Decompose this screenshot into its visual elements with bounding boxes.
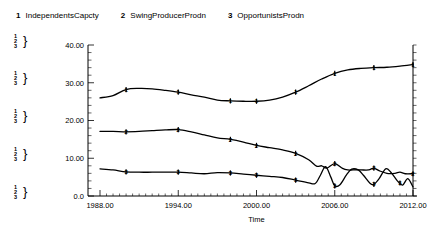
series-layer: 111111112222222233333333 [100, 62, 415, 189]
x-axis-tick-label: 1988.00 [86, 201, 113, 210]
plot-area: 111111112222222233333333 40.0030.0020.00… [0, 0, 441, 247]
x-axis-title: Time [248, 215, 264, 224]
y-axis-tick-label: 10.00 [65, 154, 84, 163]
series-marker-label-1: 1 [411, 62, 415, 68]
series-marker-label-1: 1 [333, 71, 337, 77]
x-axis-tick-label: 2000.00 [243, 201, 270, 210]
series-2: 22222222 [100, 127, 415, 177]
series-1: 11111111 [100, 62, 415, 105]
series-marker-label-1: 1 [294, 89, 298, 95]
y-axis-tick-label: 40.00 [65, 41, 84, 50]
y-axis-tick-label: 0.0 [74, 192, 84, 201]
y-axis-tick-label: 30.00 [65, 79, 84, 88]
series-line-2 [100, 129, 413, 173]
series-line-1 [100, 65, 413, 102]
x-axis-tick-label: 2006.00 [321, 201, 348, 210]
x-axis-tick-label: 2012.00 [399, 201, 426, 210]
x-axis-tick-label: 1994.00 [165, 201, 192, 210]
series-marker-label-2: 2 [411, 171, 415, 177]
chart-container: 1 IndependentsCapcty 2 SwingProducerProd… [0, 0, 441, 247]
y-axis-tick-label: 20.00 [65, 116, 84, 125]
